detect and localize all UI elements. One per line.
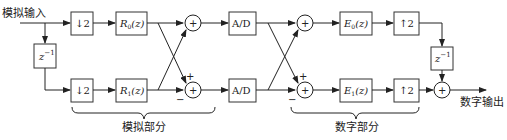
ad-converter-top: A/D — [229, 12, 256, 35]
analog-section-brace — [72, 107, 215, 119]
svg-text:E0(z): E0(z) — [343, 18, 368, 30]
ad-converter-bottom: A/D — [229, 79, 256, 102]
plus-sign: + — [299, 71, 307, 82]
svg-text:↓2: ↓2 — [75, 85, 90, 96]
svg-text:+: + — [438, 85, 446, 96]
summer-2-bottom: + — [297, 82, 313, 98]
svg-text:R0(z): R0(z) — [119, 18, 145, 30]
svg-text:↓2: ↓2 — [75, 18, 90, 29]
downsample-top-block: ↓2 — [71, 12, 93, 35]
svg-text:R1(z): R1(z) — [119, 85, 145, 97]
output-label: 数字输出 — [460, 95, 504, 109]
input-label: 模拟输入 — [2, 6, 46, 20]
downsample-bottom-block: ↓2 — [71, 79, 93, 102]
cross-wire — [158, 30, 186, 90]
cross-wire — [268, 30, 298, 90]
summer-2-top: + — [297, 15, 313, 31]
digital-section-label: 数字部分 — [335, 120, 379, 134]
svg-text:+: + — [189, 85, 197, 96]
e0-filter-block: E0(z) — [340, 12, 372, 35]
input-delay-block: z−1 — [34, 44, 56, 68]
analog-section-label: 模拟部分 — [122, 120, 166, 134]
minus-sign: − — [288, 94, 296, 105]
summer-1-bottom: + — [185, 82, 201, 98]
svg-text:A/D: A/D — [231, 18, 251, 29]
svg-text:+: + — [189, 18, 197, 29]
r1-filter-block: R1(z) — [116, 79, 147, 102]
svg-text:E1(z): E1(z) — [343, 85, 368, 97]
delay-to-down-wire — [45, 68, 70, 90]
svg-text:+: + — [301, 85, 309, 96]
summer-1-top: + — [185, 15, 201, 31]
svg-text:+: + — [301, 18, 309, 29]
digital-section-brace — [291, 107, 419, 119]
output-delay-block: z−1 — [431, 47, 453, 70]
upsample-top-block: ↑2 — [394, 12, 419, 35]
svg-text:↑2: ↑2 — [399, 85, 414, 96]
upsample-bottom-block: ↑2 — [394, 79, 419, 102]
cross-wire — [268, 23, 298, 83]
svg-text:A/D: A/D — [231, 85, 251, 96]
cross-wire — [158, 23, 186, 83]
minus-sign: − — [176, 94, 184, 105]
output-summer: + — [434, 82, 450, 98]
e1-filter-block: E1(z) — [340, 79, 372, 102]
svg-text:↑2: ↑2 — [399, 18, 414, 29]
wire — [419, 23, 442, 46]
r0-filter-block: R0(z) — [116, 12, 147, 35]
plus-sign: + — [186, 71, 194, 82]
block-diagram: 模拟输入 z−1 ↓2 ↓2 R0(z) R1(z) + + + − — [0, 0, 507, 140]
